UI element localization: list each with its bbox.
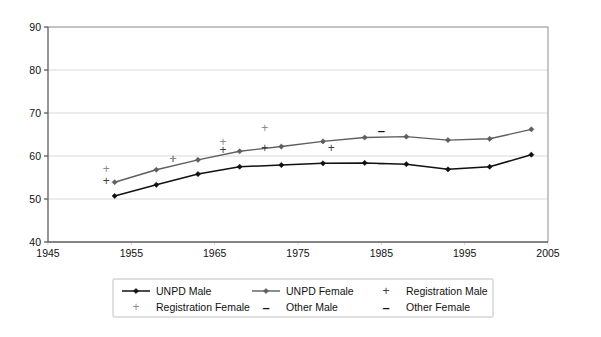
data-point bbox=[320, 139, 325, 144]
data-point bbox=[154, 182, 159, 187]
grid-lines bbox=[48, 27, 548, 199]
data-point bbox=[445, 137, 450, 142]
x-tick-label-1985: 1985 bbox=[370, 247, 394, 259]
data-point bbox=[279, 162, 284, 167]
plot-axes bbox=[48, 27, 548, 242]
data-point-dash-marker: – bbox=[378, 123, 385, 138]
x-tick-label-1955: 1955 bbox=[120, 247, 144, 259]
data-point bbox=[237, 164, 242, 169]
data-point bbox=[487, 136, 492, 141]
data-point bbox=[112, 193, 117, 198]
data-point bbox=[362, 160, 367, 165]
legend-plus-icon: + bbox=[382, 284, 389, 298]
data-point-plus-marker: + bbox=[169, 152, 176, 166]
x-tick-label-1945: 1945 bbox=[36, 247, 60, 259]
series-registration-female: ++++ bbox=[103, 121, 268, 176]
data-point bbox=[445, 167, 450, 172]
legend-dash-icon: – bbox=[262, 300, 269, 315]
data-point bbox=[195, 171, 200, 176]
y-tick-label-70: 70 bbox=[29, 107, 41, 119]
series-layer: +++++++++–– bbox=[103, 121, 534, 199]
data-point-plus-marker: + bbox=[261, 141, 268, 155]
data-point-plus-marker: + bbox=[103, 162, 110, 176]
x-tick-label-2005: 2005 bbox=[536, 247, 560, 259]
y-tick-label-90: 90 bbox=[29, 21, 41, 33]
legend-dash-icon: – bbox=[382, 300, 389, 315]
legend-label: Registration Male bbox=[406, 285, 488, 297]
data-point bbox=[404, 134, 409, 139]
data-point-plus-marker: + bbox=[261, 121, 268, 135]
data-point-plus-marker: + bbox=[219, 135, 226, 149]
data-point bbox=[279, 144, 284, 149]
legend-plus-icon: + bbox=[132, 300, 139, 314]
data-point bbox=[404, 162, 409, 167]
data-point-dash-marker: – bbox=[378, 155, 385, 170]
y-axis-tick-labels: 405060708090 bbox=[29, 21, 48, 248]
data-point-plus-marker: + bbox=[328, 141, 335, 155]
plot-frame-top-right bbox=[48, 27, 548, 242]
data-point-plus-marker: + bbox=[103, 174, 110, 188]
series-other-male: – bbox=[378, 155, 385, 170]
data-point bbox=[529, 127, 534, 132]
x-tick-label-1965: 1965 bbox=[203, 247, 227, 259]
y-tick-label-60: 60 bbox=[29, 150, 41, 162]
data-point bbox=[195, 157, 200, 162]
y-tick-label-50: 50 bbox=[29, 193, 41, 205]
legend-label: Other Male bbox=[286, 301, 338, 313]
chart-container: 405060708090 194519551965197519851995200… bbox=[0, 0, 601, 337]
data-point bbox=[320, 161, 325, 166]
x-tick-label-1975: 1975 bbox=[286, 247, 310, 259]
data-point bbox=[112, 180, 117, 185]
y-tick-label-40: 40 bbox=[29, 236, 41, 248]
data-point bbox=[362, 135, 367, 140]
legend-label: UNPD Female bbox=[286, 285, 354, 297]
legend-label: UNPD Male bbox=[156, 285, 212, 297]
line-chart: 405060708090 194519551965197519851995200… bbox=[0, 0, 601, 337]
data-point bbox=[487, 164, 492, 169]
x-axis-tick-labels: 1945195519651975198519952005 bbox=[36, 242, 560, 259]
x-tick-label-1995: 1995 bbox=[453, 247, 477, 259]
y-tick-label-80: 80 bbox=[29, 64, 41, 76]
data-point bbox=[237, 149, 242, 154]
series-other-female: – bbox=[378, 123, 385, 138]
data-point bbox=[529, 152, 534, 157]
legend-label: Other Female bbox=[406, 301, 470, 313]
data-point bbox=[154, 167, 159, 172]
chart-legend: UNPD MaleUNPD Female+Registration Male+R… bbox=[113, 279, 493, 317]
legend-label: Registration Female bbox=[156, 301, 250, 313]
